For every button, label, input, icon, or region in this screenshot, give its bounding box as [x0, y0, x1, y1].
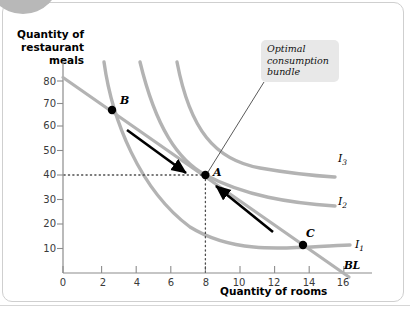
callout-line-2: consumption: [267, 55, 334, 67]
curve-label-i2-sub: 2: [342, 201, 347, 210]
x-axis-ticks: [63, 266, 344, 273]
data-point-label-a: A: [213, 166, 222, 179]
curve-label-i3-sub: 3: [342, 158, 347, 167]
arrow-c-to-a: [216, 186, 273, 232]
data-point-label-b: B: [120, 94, 129, 107]
data-point-label-c: C: [306, 227, 315, 240]
callout-line-3: bundle: [267, 66, 334, 78]
data-point-a: [201, 171, 209, 179]
curve-label-i1: I1: [355, 238, 364, 253]
callout-optimal-consumption-bundle: Optimal consumption bundle: [261, 40, 339, 82]
bottom-strip: [0, 305, 410, 327]
curve-label-i3: I3: [338, 152, 347, 167]
curve-label-i1-sub: 1: [359, 244, 364, 253]
figure-container: Quantity of restaurant meals Quantity of…: [0, 0, 410, 327]
data-point-b: [108, 106, 116, 114]
callout-line-1: Optimal: [267, 43, 334, 55]
indifference-curve-i2: [140, 62, 335, 206]
curve-label-i2: I2: [338, 195, 347, 210]
callout-leader-line: [208, 82, 264, 172]
data-point-c: [299, 241, 307, 249]
plot-svg: [0, 0, 410, 327]
y-axis-ticks: [57, 81, 63, 249]
curve-label-bl: BL: [344, 259, 360, 271]
